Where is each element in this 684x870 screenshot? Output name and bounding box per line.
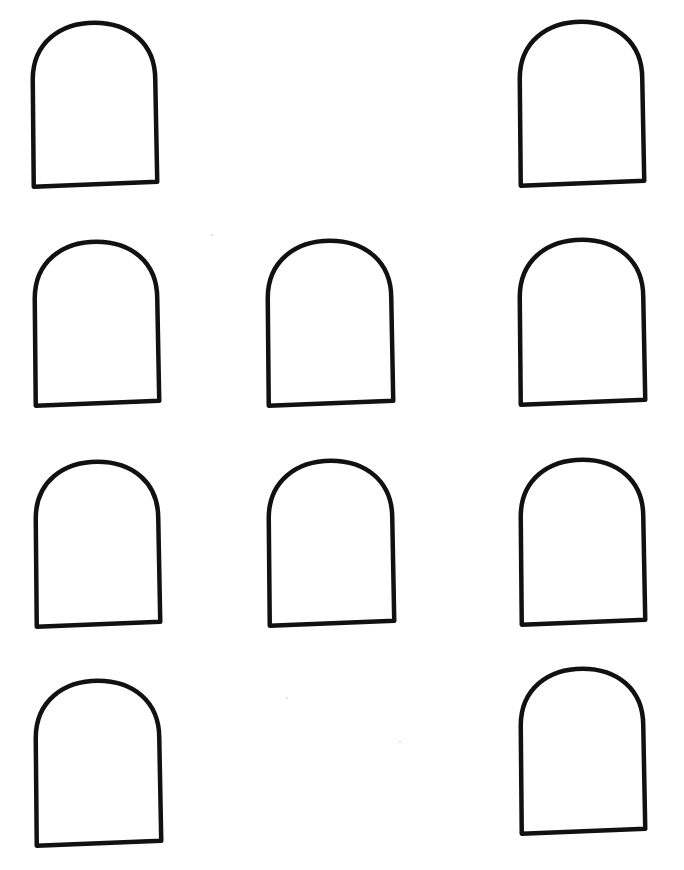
arch-shape-outline	[29, 674, 167, 850]
arch-outline-path	[520, 459, 645, 624]
arch-shape-outline	[29, 455, 166, 631]
scan-speck	[286, 697, 288, 699]
arch-shape-outline	[514, 453, 651, 629]
arch-shape-outline	[262, 454, 400, 630]
arch-shape-outline	[513, 15, 650, 190]
arch-shape-outline	[28, 235, 165, 410]
arch-outline-path	[32, 22, 157, 186]
arch-shape-outline	[514, 662, 651, 838]
scan-speck	[399, 741, 401, 743]
arch-outline-path	[519, 239, 645, 404]
arch-shape-outline	[513, 233, 651, 409]
arch-outline-path	[520, 668, 645, 833]
arch-outline-path	[34, 241, 159, 405]
arch-outline-path	[519, 21, 644, 185]
arch-outline-path	[35, 680, 161, 845]
arch-shape-outline	[26, 16, 163, 191]
scan-speck	[211, 234, 213, 236]
arch-shape-outline	[261, 234, 399, 410]
arch-outline-path	[268, 460, 394, 625]
arch-outline-path	[35, 461, 160, 626]
worksheet-page	[0, 0, 684, 870]
arch-outline-path	[267, 240, 393, 405]
